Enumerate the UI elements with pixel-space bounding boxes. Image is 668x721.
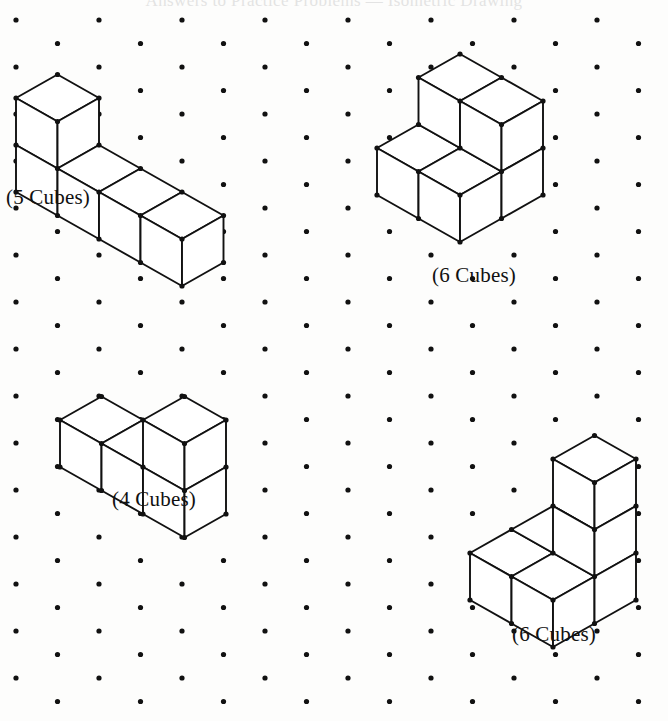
figure-4-label: (6 Cubes) [512, 622, 596, 647]
isometric-dot-grid [0, 0, 668, 721]
figure-1-label: (5 Cubes) [6, 185, 90, 210]
worksheet-page: Answers to Practice Problems — Isometric… [0, 0, 668, 721]
figure-2-label: (6 Cubes) [432, 263, 516, 288]
figure-3-label: (4 Cubes) [112, 487, 196, 512]
